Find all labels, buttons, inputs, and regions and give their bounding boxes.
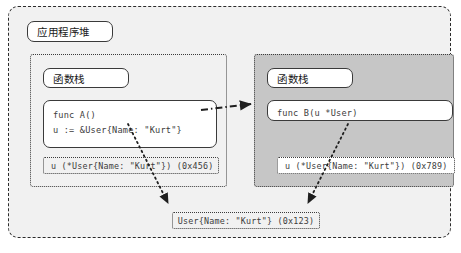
func-a-signature: func A() <box>53 108 216 123</box>
func-b-signature: func B(u *User) <box>277 106 452 121</box>
func-a-code-box: func A() u := &User{Name: "Kurt"} <box>43 100 217 148</box>
right-stack-label: 函数栈 <box>267 68 353 88</box>
func-b-code-box: func B(u *User) <box>267 100 453 121</box>
heap-title-label: 应用程序堆 <box>27 21 113 42</box>
left-stack-variable-cell: u (*User{Name: "Kurt"}) (0x456) <box>43 157 219 174</box>
right-stack-variable-cell: u (*User{Name: "Kurt"}) (0x789) <box>277 157 455 174</box>
application-heap-container: 应用程序堆 函数栈 func A() u := &User{Name: "Kur… <box>8 6 451 238</box>
left-stack-label: 函数栈 <box>43 68 129 88</box>
memory-model-diagram: 应用程序堆 函数栈 func A() u := &User{Name: "Kur… <box>0 0 461 253</box>
left-function-stack: 函数栈 func A() u := &User{Name: "Kurt"} u … <box>30 54 227 187</box>
right-function-stack: 函数栈 func B(u *User) u (*User{Name: "Kurt… <box>254 54 454 187</box>
heap-object-cell: User{Name: "Kurt"} (0x123) <box>172 212 320 229</box>
func-a-assignment: u := &User{Name: "Kurt"} <box>53 123 216 138</box>
